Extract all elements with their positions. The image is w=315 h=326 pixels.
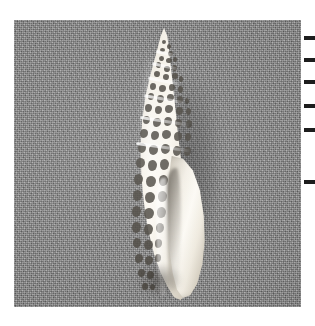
registration-tick bbox=[304, 128, 315, 132]
registration-tick bbox=[304, 80, 315, 84]
page-root bbox=[0, 0, 315, 326]
registration-tick bbox=[304, 104, 315, 108]
registration-tick bbox=[304, 58, 315, 62]
shell-photograph bbox=[14, 20, 301, 307]
registration-tick-rail bbox=[302, 20, 315, 307]
photo-vignette bbox=[14, 20, 301, 307]
registration-tick bbox=[304, 180, 315, 184]
registration-tick bbox=[304, 36, 315, 40]
